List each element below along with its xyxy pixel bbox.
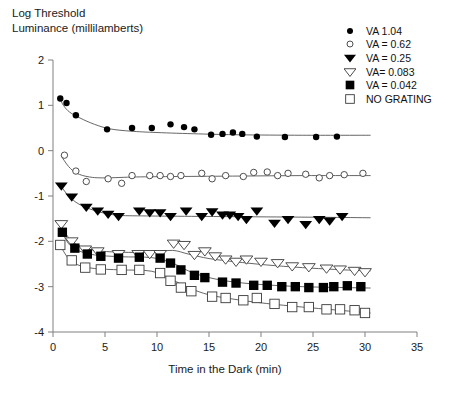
data-point-marker	[96, 252, 105, 261]
data-point-marker	[147, 172, 153, 178]
data-point-marker	[239, 296, 248, 305]
data-point-marker	[81, 263, 90, 272]
data-point-marker	[334, 133, 340, 139]
data-point-marker	[178, 241, 191, 249]
data-point-marker	[222, 172, 228, 178]
data-point-marker	[164, 213, 177, 221]
data-point-marker	[291, 282, 300, 291]
y-axis-title: Log Threshold Luminance (millilamberts)	[12, 6, 143, 36]
data-point-marker	[135, 265, 144, 274]
data-point-marker	[57, 95, 63, 101]
filled-square-icon	[340, 79, 360, 91]
data-point-marker	[343, 281, 352, 290]
data-point-marker	[67, 256, 76, 265]
y-tick-label: 2	[38, 54, 44, 66]
data-point-marker	[288, 302, 297, 311]
data-point-marker	[58, 228, 67, 237]
x-tick-label: 20	[255, 341, 267, 353]
open-square-icon	[340, 93, 360, 105]
data-point-marker	[251, 169, 257, 175]
data-point-marker	[270, 299, 279, 308]
y-tick-label: 1	[38, 99, 44, 111]
x-tick-label: 25	[307, 341, 319, 353]
legend-item-0[interactable]: VA 1.04	[340, 24, 432, 38]
data-point-marker	[133, 207, 146, 215]
data-point-marker	[206, 208, 219, 216]
legend-item-5[interactable]: NO GRATING	[340, 92, 432, 106]
series-markers-2	[55, 183, 349, 230]
data-point-marker	[166, 276, 175, 285]
data-point-marker	[250, 207, 263, 215]
y-axis-title-line1: Log Threshold	[12, 6, 143, 21]
legend-item-label: VA = 0.25	[366, 52, 411, 64]
filled-circle-glyph	[347, 28, 353, 34]
data-point-marker	[63, 100, 69, 106]
series-markers-1	[61, 152, 366, 187]
x-tick-label: 35	[411, 341, 423, 353]
data-point-marker	[70, 243, 79, 252]
data-point-marker	[176, 283, 185, 292]
data-marker-layer	[55, 95, 371, 317]
legend-item-4[interactable]: VA = 0.042	[340, 78, 432, 92]
data-point-marker	[268, 220, 281, 228]
data-point-marker	[359, 269, 372, 277]
data-point-marker	[221, 293, 230, 302]
data-point-marker	[285, 170, 291, 176]
series-markers-4	[58, 228, 366, 293]
data-point-marker	[360, 170, 366, 176]
data-point-marker	[360, 308, 369, 317]
data-point-marker	[304, 283, 313, 292]
x-axis-title: Time in the Dark (min)	[0, 363, 450, 375]
data-point-marker	[166, 258, 175, 267]
legend-item-2[interactable]: VA = 0.25	[340, 51, 432, 65]
data-point-marker	[249, 281, 258, 290]
legend-item-1[interactable]: VA = 0.62	[340, 38, 432, 52]
data-point-marker	[335, 305, 344, 314]
filled-triangle-down-glyph	[344, 55, 356, 63]
y-tick-label: -1	[34, 190, 44, 202]
x-tick-label: 10	[151, 341, 163, 353]
data-point-marker	[135, 253, 144, 262]
filled-square-glyph	[346, 81, 355, 90]
data-point-marker	[231, 278, 240, 287]
data-point-marker	[323, 217, 336, 225]
data-point-marker	[191, 126, 197, 132]
dark-adaptation-chart-figure: Log Threshold Luminance (millilamberts) …	[0, 0, 450, 394]
data-point-marker	[83, 249, 92, 258]
data-point-marker	[304, 302, 313, 311]
legend-item-3[interactable]: VA= 0.083	[340, 65, 432, 79]
data-point-marker	[264, 169, 270, 175]
open-triangle-down-icon	[340, 66, 360, 78]
fit-curve-series-1	[61, 156, 370, 178]
open-square-glyph	[346, 94, 355, 103]
open-circle-glyph	[347, 41, 353, 47]
y-tick-label: 0	[38, 145, 44, 157]
data-point-marker	[277, 282, 286, 291]
data-point-marker	[282, 216, 295, 224]
x-tick-label: 30	[359, 341, 371, 353]
data-point-marker	[263, 281, 272, 290]
data-point-marker	[118, 180, 124, 186]
data-point-marker	[91, 207, 104, 215]
data-point-marker	[313, 216, 326, 224]
data-point-marker	[329, 282, 338, 291]
data-point-marker	[129, 125, 135, 131]
data-point-marker	[114, 253, 123, 262]
data-point-marker	[209, 176, 215, 182]
fit-curve-series-3	[60, 223, 370, 271]
data-point-marker	[105, 176, 111, 182]
legend-item-label: VA = 0.042	[366, 79, 417, 91]
data-point-marker	[181, 124, 187, 130]
data-point-marker	[56, 240, 65, 249]
data-point-marker	[73, 168, 79, 174]
data-point-marker	[73, 112, 79, 118]
data-point-marker	[129, 172, 135, 178]
data-point-marker	[230, 129, 236, 135]
data-point-marker	[240, 173, 246, 179]
data-point-marker	[178, 172, 184, 178]
y-axis-title-line2: Luminance (millilamberts)	[12, 21, 143, 36]
data-point-marker	[254, 133, 260, 139]
legend-item-label: VA= 0.083	[366, 66, 415, 78]
data-point-marker	[350, 306, 359, 315]
data-point-marker	[326, 172, 332, 178]
